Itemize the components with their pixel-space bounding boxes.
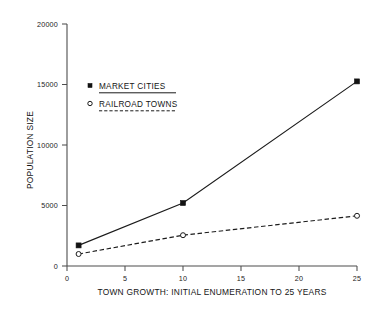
x-tick-label: 10 — [179, 274, 187, 283]
y-axis-title: POPULATION SIZE — [25, 111, 35, 189]
railroad-towns-point — [76, 252, 81, 257]
x-tick-label: 5 — [123, 274, 127, 283]
population-growth-line-chart: 0 5000 10000 15000 20000 0 5 10 15 20 25… — [0, 0, 385, 311]
x-axis-title: TOWN GROWTH: INITIAL ENUMERATION TO 25 Y… — [97, 287, 326, 297]
x-tick-label: 15 — [237, 274, 245, 283]
market-cities-point — [181, 201, 186, 206]
y-tick-label: 5000 — [41, 201, 58, 210]
x-tick-label: 25 — [353, 274, 361, 283]
x-tick-label: 0 — [65, 274, 69, 283]
legend-label: MARKET CITIES — [99, 82, 166, 91]
railroad-towns-point — [355, 213, 360, 218]
x-tick-label: 20 — [295, 274, 303, 283]
legend-filled-square-icon — [88, 84, 92, 88]
market-cities-point — [355, 79, 360, 84]
railroad-towns-point — [181, 233, 186, 238]
chart-figure: 0 5000 10000 15000 20000 0 5 10 15 20 25… — [0, 0, 385, 311]
y-tick-label: 20000 — [37, 20, 58, 29]
legend-label: RAILROAD TOWNS — [99, 100, 178, 109]
y-tick-label: 0 — [54, 262, 58, 271]
legend-open-circle-icon — [88, 101, 92, 105]
market-cities-point — [76, 243, 81, 248]
y-tick-label: 10000 — [37, 141, 58, 150]
y-tick-label: 15000 — [37, 80, 58, 89]
